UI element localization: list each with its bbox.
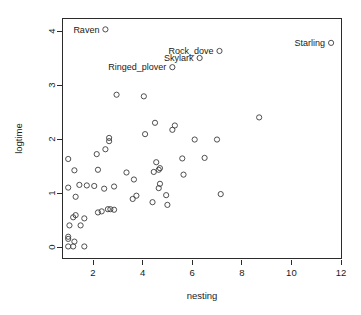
scatter-point	[192, 137, 197, 142]
scatter-point	[156, 167, 161, 172]
scatter-point	[180, 156, 185, 161]
scatter-point	[170, 127, 175, 132]
scatter-point	[214, 137, 219, 142]
scatter-point	[66, 185, 71, 190]
y-tick-label: 0	[46, 244, 57, 249]
y-tick-label: 1	[46, 190, 57, 195]
scatter-point	[82, 216, 87, 221]
x-tick-label: 12	[336, 267, 347, 278]
scatter-point	[107, 139, 112, 144]
scatter-point	[78, 223, 83, 228]
x-tick-label: 8	[239, 267, 244, 278]
point-labels-layer: RavenStarlingRock_doveSkylarkRinged_plov…	[73, 25, 325, 73]
x-tick-label: 4	[140, 267, 145, 278]
scatter-point	[71, 244, 76, 249]
scatter-point	[102, 186, 107, 191]
scatter-point	[103, 147, 108, 152]
x-axis: 24681012	[90, 260, 346, 278]
scatter-point	[66, 244, 71, 249]
scatter-point	[82, 244, 87, 249]
scatter-point	[150, 200, 155, 205]
scatter-point	[141, 94, 146, 99]
point-label-ringed_plover: Ringed_plover	[108, 62, 166, 72]
y-tick-label: 3	[46, 82, 57, 87]
scatter-point	[154, 160, 159, 165]
scatter-point	[84, 183, 89, 188]
scatter-plot-figure: 24681012 01234 RavenStarlingRock_doveSky…	[0, 0, 361, 315]
scatter-point	[164, 193, 169, 198]
scatter-point	[94, 152, 99, 157]
scatter-point	[157, 166, 162, 171]
scatter-point	[95, 167, 100, 172]
scatter-point	[72, 239, 77, 244]
scatter-point	[111, 184, 116, 189]
scatter-point	[73, 194, 78, 199]
x-tick-label: 2	[90, 267, 95, 278]
scatter-point	[77, 182, 82, 187]
y-axis-title: logtime	[13, 123, 24, 154]
scatter-point	[202, 155, 207, 160]
scatter-point	[114, 92, 119, 97]
scatter-point	[66, 156, 71, 161]
plot-canvas: 24681012 01234 RavenStarlingRock_doveSky…	[0, 0, 361, 315]
scatter-point	[67, 223, 72, 228]
scatter-point	[328, 40, 333, 45]
scatter-point	[151, 169, 156, 174]
scatter-point	[165, 202, 170, 207]
x-tick-label: 6	[190, 267, 195, 278]
scatter-point	[130, 196, 135, 201]
y-tick-label: 4	[46, 28, 57, 33]
scatter-point	[152, 120, 157, 125]
scatter-point	[124, 170, 129, 175]
point-label-skylark: Skylark	[164, 53, 194, 63]
scatter-point	[131, 177, 136, 182]
x-tick-label: 10	[286, 267, 297, 278]
scatter-point	[217, 48, 222, 53]
y-axis: 01234	[46, 28, 62, 249]
y-tick-label: 2	[46, 136, 57, 141]
point-label-starling: Starling	[295, 38, 326, 48]
scatter-point	[111, 207, 116, 212]
scatter-point	[181, 172, 186, 177]
scatter-point	[218, 191, 223, 196]
scatter-point	[72, 168, 77, 173]
scatter-point	[170, 65, 175, 70]
x-axis-title: nesting	[187, 290, 218, 301]
scatter-point	[257, 115, 262, 120]
point-label-raven: Raven	[73, 25, 99, 35]
scatter-point	[92, 183, 97, 188]
data-points-layer	[66, 27, 334, 249]
scatter-point	[142, 132, 147, 137]
scatter-point	[103, 27, 108, 32]
